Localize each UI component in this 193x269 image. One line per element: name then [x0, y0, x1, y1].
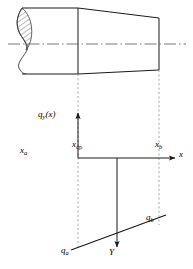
load-function-subscript: y — [43, 113, 46, 120]
station-b-subscript: b — [159, 143, 162, 150]
load-function-argument: (x) — [45, 109, 55, 119]
coordinate-axes-group — [78, 113, 175, 247]
load-a-label: qa — [61, 246, 69, 255]
load-b-subscript: b — [151, 216, 154, 223]
body-top-edge-taper — [78, 8, 159, 18]
load-b-label: qb — [146, 213, 154, 222]
station-cp-subscript: cp — [76, 143, 82, 150]
load-b-base: q — [146, 212, 151, 222]
station-b-label: xb — [155, 140, 162, 149]
load-function-label: qy(x) — [38, 110, 55, 119]
aerodynamic-load-diagram: qy(x) xa xcp xb x qa qb Y — [0, 0, 193, 269]
body-bottom-edge-taper — [78, 70, 159, 74]
station-a-subscript: a — [24, 149, 27, 156]
load-a-base: q — [61, 245, 66, 255]
load-a-subscript: a — [66, 249, 69, 256]
load-function-base: q — [38, 109, 43, 119]
station-a-label: xa — [20, 146, 27, 155]
resultant-force-label: Y — [109, 248, 114, 257]
diagram-canvas — [0, 0, 193, 269]
body-outline-group — [17, 8, 159, 74]
x-axis-base: x — [179, 149, 183, 159]
x-axis-label: x — [179, 150, 183, 159]
resultant-force-base: Y — [109, 247, 114, 257]
station-cp-label: xcp — [72, 140, 82, 149]
